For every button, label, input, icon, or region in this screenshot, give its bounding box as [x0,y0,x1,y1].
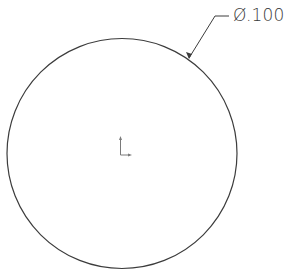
diameter-leader[interactable] [186,16,229,59]
drawing-sheet: Ø.100 [0,0,289,273]
diameter-dimension-text[interactable]: Ø.100 [233,5,285,25]
drawing-view [0,0,289,273]
circle-geometry[interactable] [7,39,237,269]
origin-axis-icon [119,136,132,157]
